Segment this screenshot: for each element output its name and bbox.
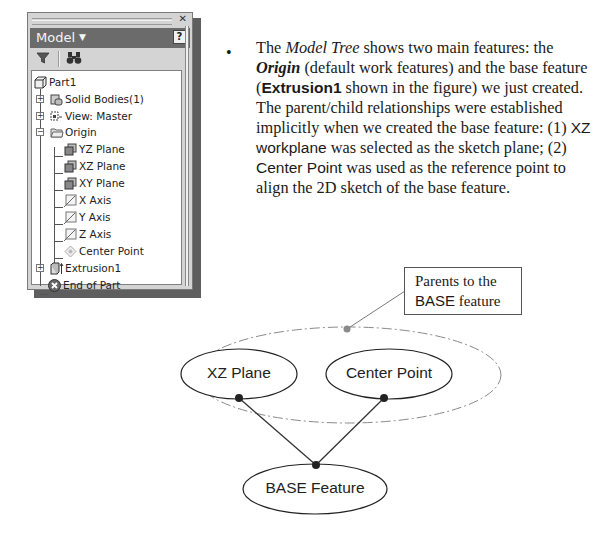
callout-box: Parents to the BASE feature bbox=[404, 267, 522, 315]
callout-feature-word: feature bbox=[455, 293, 500, 309]
connection-dot bbox=[312, 461, 320, 469]
callout-anchor-dot bbox=[344, 326, 351, 333]
connection-dot bbox=[235, 394, 243, 402]
edge-xz-to-base bbox=[239, 398, 316, 465]
node-center-point-label: Center Point bbox=[326, 364, 452, 382]
node-xz-plane-label: XZ Plane bbox=[181, 364, 297, 382]
node-base-feature-label: BASE Feature bbox=[243, 479, 387, 497]
edge-center-to-base bbox=[316, 398, 384, 465]
callout-base-term: BASE bbox=[415, 292, 455, 309]
connection-dot bbox=[380, 394, 388, 402]
callout-leader-line bbox=[347, 291, 405, 329]
callout-line-1: Parents to the bbox=[415, 272, 521, 291]
